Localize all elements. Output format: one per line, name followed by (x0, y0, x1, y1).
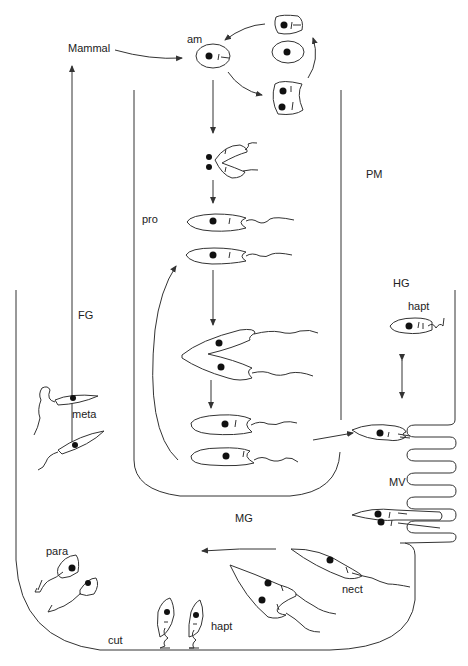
mv-attached-pair (352, 509, 442, 528)
label-meta: meta (72, 408, 96, 420)
life-cycle-diagram (0, 0, 468, 666)
label-fg: FG (78, 309, 93, 321)
attached-nectomonad (352, 425, 410, 441)
label-cut: cut (108, 634, 123, 646)
procyclic-promastigotes (186, 214, 294, 264)
label-mg: MG (235, 512, 253, 524)
label-hapt-top: hapt (408, 300, 429, 312)
label-hapt-bottom: hapt (211, 620, 232, 632)
label-nect: nect (342, 583, 363, 595)
haptomonad-hg (390, 318, 444, 334)
label-mammal: Mammal (68, 42, 110, 54)
label-para: para (46, 545, 68, 557)
nectomonads-mg (191, 415, 298, 466)
paramastigotes (35, 555, 98, 612)
haptomonads-cut (157, 598, 203, 648)
label-pro: pro (142, 213, 158, 225)
dividing-nectomonad (182, 329, 318, 380)
label-pm: PM (366, 168, 383, 180)
dividing-promastigote (206, 143, 258, 178)
amastigote-cycle (196, 15, 316, 114)
label-hg: HG (393, 277, 410, 289)
arrow-mammal-to-am (115, 50, 182, 58)
metacyclics (34, 387, 104, 470)
label-am: am (187, 33, 202, 45)
nectomonads-lower (230, 549, 410, 632)
label-mv: MV (389, 476, 406, 488)
